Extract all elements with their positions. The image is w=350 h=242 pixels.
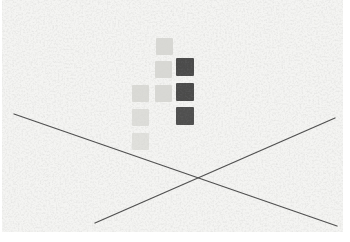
texture-overlay bbox=[2, 0, 343, 232]
textured-canvas bbox=[0, 0, 350, 242]
scene-svg bbox=[0, 0, 350, 242]
